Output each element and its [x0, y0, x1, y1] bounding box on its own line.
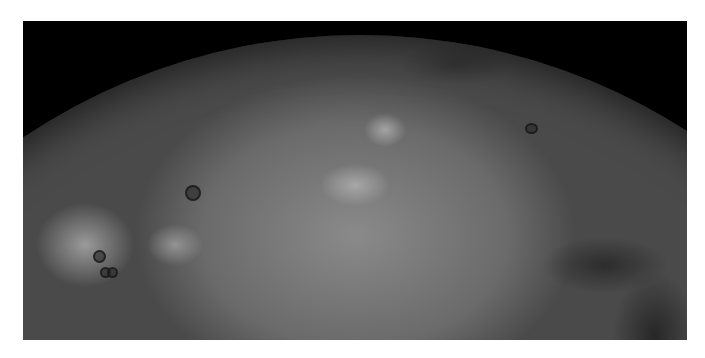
crater: [185, 185, 201, 201]
crater: [107, 267, 118, 278]
crater: [525, 123, 538, 134]
space-background: [23, 21, 687, 340]
planet-disk: [23, 35, 687, 340]
crater: [93, 250, 106, 263]
